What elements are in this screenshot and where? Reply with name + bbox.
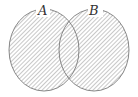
venn-diagram: A B — [0, 0, 138, 97]
set-a-label: A — [37, 3, 47, 18]
set-b-label: B — [88, 3, 99, 18]
